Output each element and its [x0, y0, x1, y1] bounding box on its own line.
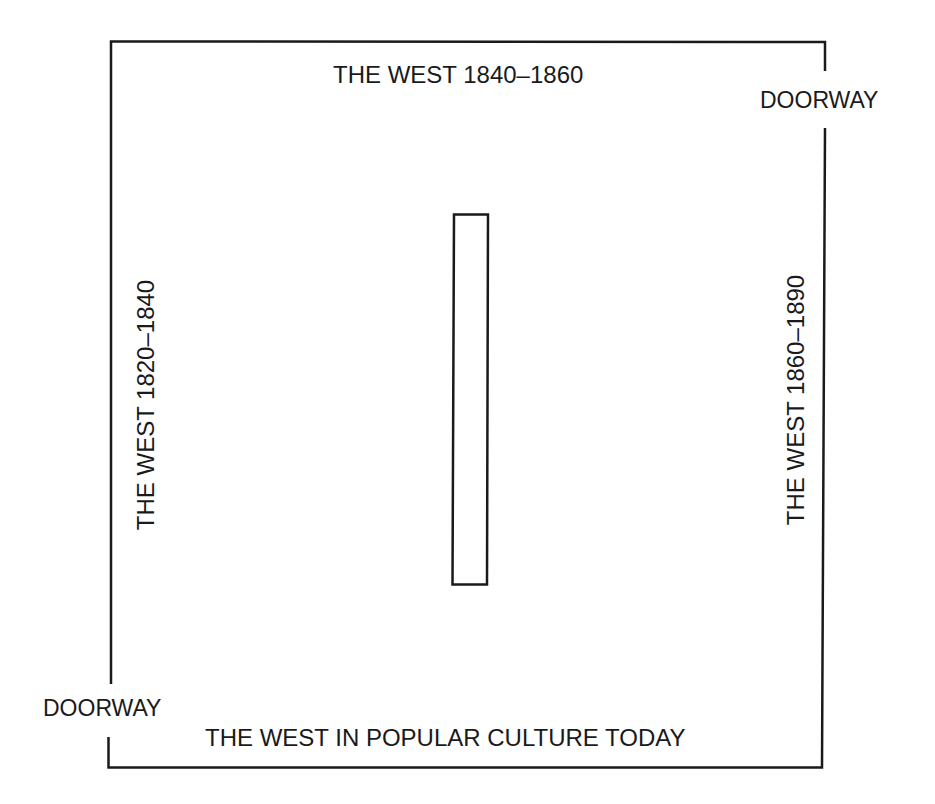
exhibit-floor-plan: THE WEST 1840–1860 DOORWAY THE WEST 1820… [0, 0, 935, 804]
doorway-label-lower-left: DOORWAY [43, 697, 161, 720]
wall-bottom [109, 128, 826, 768]
wall-label-top: THE WEST 1840–1860 [333, 63, 583, 87]
wall-top [111, 42, 825, 685]
doorway-label-upper-right: DOORWAY [760, 89, 878, 112]
center-partition [453, 215, 489, 585]
wall-label-left: THE WEST 1820–1840 [134, 280, 158, 530]
wall-label-right: THE WEST 1860–1890 [784, 275, 808, 525]
wall-label-bottom: THE WEST IN POPULAR CULTURE TODAY [205, 726, 686, 750]
